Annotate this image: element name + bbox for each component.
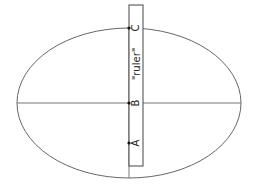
label-a: A xyxy=(130,139,141,146)
label-c: C xyxy=(130,24,141,31)
label-b: B xyxy=(130,99,141,106)
ellipse-ruler-diagram: C B A "ruler" xyxy=(0,0,258,187)
ruler-label: "ruler" xyxy=(131,48,142,81)
